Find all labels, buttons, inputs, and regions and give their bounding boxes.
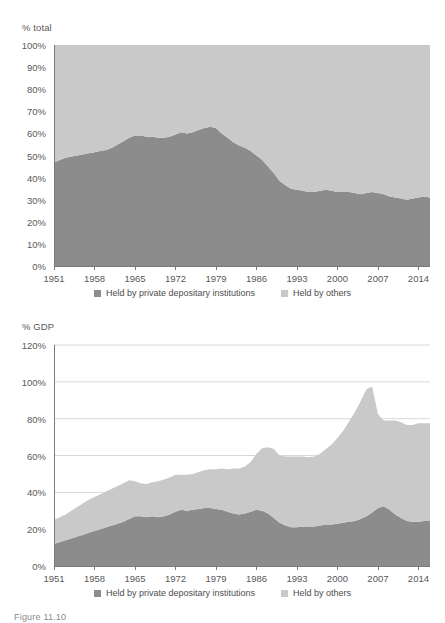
chart-2-legend: Held by private depositary institutions … [0, 588, 445, 598]
x-tick-label: 1965 [124, 273, 145, 284]
chart-2-plot-area [54, 345, 430, 566]
x-tick-label: 1979 [205, 273, 226, 284]
x-tick-label: 1993 [286, 573, 307, 584]
y-tick-label: 40% [27, 172, 46, 183]
x-tick-label: 2014 [408, 273, 429, 284]
y-tick-label: 120% [22, 340, 46, 351]
legend-swatch-others [281, 290, 288, 297]
chart-share-of-gdp: % GDP 0%20%40%60%80%100%120% 19511958196… [0, 312, 445, 612]
y-tick-label: 100% [22, 376, 46, 387]
y-tick-label: 60% [27, 450, 46, 461]
x-tick-label: 1965 [124, 573, 145, 584]
x-tick-label: 1958 [84, 273, 105, 284]
legend-item-others: Held by others [281, 588, 351, 598]
legend-label-private-depositary: Held by private depositary institutions [106, 588, 255, 598]
y-tick-label: 50% [27, 150, 46, 161]
y-tick-label: 20% [27, 524, 46, 535]
x-tick-label: 1986 [246, 573, 267, 584]
chart-2-y-axis-title: % GDP [22, 321, 54, 332]
y-tick-label: 80% [27, 413, 46, 424]
x-tick-label: 2000 [327, 273, 348, 284]
chart-1-legend: Held by private depositary institutions … [0, 288, 445, 298]
chart-share-of-total: % total 0%10%20%30%40%50%60%70%80%90%100… [0, 0, 445, 312]
x-tick-label: 2000 [327, 573, 348, 584]
x-tick-label: 2014 [408, 573, 429, 584]
y-tick-label: 70% [27, 106, 46, 117]
x-tick-label: 2007 [367, 573, 388, 584]
x-tick-label: 1958 [84, 573, 105, 584]
legend-label-others: Held by others [293, 288, 351, 298]
x-tick-label: 2007 [367, 273, 388, 284]
y-tick-label: 0% [32, 561, 46, 572]
c1-svg [54, 45, 430, 266]
legend-label-others: Held by others [293, 588, 351, 598]
legend-item-private-depositary: Held by private depositary institutions [94, 288, 255, 298]
y-tick-label: 0% [32, 261, 46, 272]
y-tick-label: 20% [27, 216, 46, 227]
x-tick-label: 1972 [165, 273, 186, 284]
x-tick-label: 1979 [205, 573, 226, 584]
legend-item-private-depositary: Held by private depositary institutions [94, 588, 255, 598]
y-tick-label: 80% [27, 84, 46, 95]
chart-1-plot-area [54, 45, 430, 266]
legend-swatch-others [281, 590, 288, 597]
x-tick-label: 1972 [165, 573, 186, 584]
c2-svg [54, 345, 430, 566]
y-tick-label: 100% [22, 40, 46, 51]
chart-1-y-tick-labels: 0%10%20%30%40%50%60%70%80%90%100% [0, 45, 46, 266]
x-tick-label: 1951 [43, 573, 64, 584]
y-tick-label: 30% [27, 194, 46, 205]
y-tick-label: 90% [27, 62, 46, 73]
chart-2-y-tick-labels: 0%20%40%60%80%100%120% [0, 345, 46, 566]
legend-swatch-private-depositary [94, 590, 101, 597]
chart-1-y-axis-title: % total [22, 22, 52, 33]
x-tick-label: 1951 [43, 273, 64, 284]
figure-caption: Figure 11.10 [14, 612, 66, 622]
y-tick-label: 60% [27, 128, 46, 139]
y-tick-label: 10% [27, 238, 46, 249]
legend-item-others: Held by others [281, 288, 351, 298]
legend-label-private-depositary: Held by private depositary institutions [106, 288, 255, 298]
x-tick-label: 1993 [286, 273, 307, 284]
x-tick-label: 1986 [246, 273, 267, 284]
y-tick-label: 40% [27, 487, 46, 498]
legend-swatch-private-depositary [94, 290, 101, 297]
